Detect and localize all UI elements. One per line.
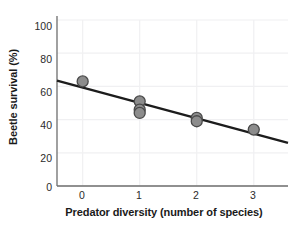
chart-figure: Beetle survival (%) 100 80 60 40 20 0 0 … <box>0 0 296 232</box>
plot-area <box>0 0 296 232</box>
data-points <box>77 76 259 135</box>
gridlines <box>57 20 288 186</box>
